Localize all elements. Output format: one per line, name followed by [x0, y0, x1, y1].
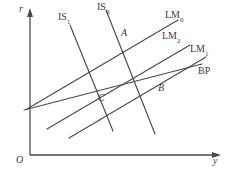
curve-LM1	[69, 57, 206, 138]
vertical-axis-arrowhead	[27, 8, 33, 17]
diagram-canvas	[0, 0, 235, 173]
curve-IS0	[106, 10, 155, 134]
curve-IS1	[70, 25, 113, 131]
curve-label-LM1: LM1	[190, 44, 209, 57]
curve-label-LM0: LM0	[165, 10, 184, 23]
point-label-C: C	[98, 93, 105, 103]
axis-label-r: r	[19, 4, 23, 14]
curve-label-LM2: LM2	[162, 31, 181, 44]
axis-label-origin: O	[16, 155, 23, 165]
curve-group	[24, 10, 206, 138]
point-label-B: B	[158, 83, 164, 93]
is-lm-bp-diagram: IS1 IS0 LM0 LM2 LM1 BP A B C r y O	[0, 0, 235, 173]
curve-label-BP: BP	[198, 66, 210, 79]
curve-BP	[24, 64, 202, 110]
curve-label-IS0: IS0	[97, 2, 109, 15]
curve-LM2	[47, 45, 190, 129]
point-label-A: A	[121, 28, 127, 38]
curve-label-IS1: IS1	[58, 12, 70, 25]
axis-label-y: y	[213, 156, 217, 166]
